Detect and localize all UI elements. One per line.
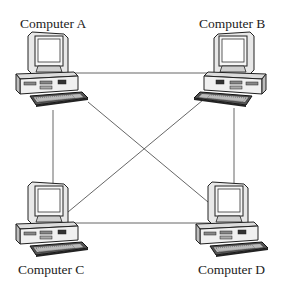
label-computer-a: Computer A xyxy=(20,16,86,32)
edge-b-c xyxy=(68,100,203,212)
edge-a-d xyxy=(88,102,220,212)
label-computer-d: Computer D xyxy=(198,262,265,278)
network-diagram xyxy=(0,0,287,291)
computer-b-icon xyxy=(194,32,266,107)
computer-d-icon xyxy=(196,182,268,257)
computer-c-icon xyxy=(16,182,88,257)
label-computer-b: Computer B xyxy=(199,16,265,32)
computer-a-icon xyxy=(16,32,88,107)
label-computer-c: Computer C xyxy=(18,262,84,278)
